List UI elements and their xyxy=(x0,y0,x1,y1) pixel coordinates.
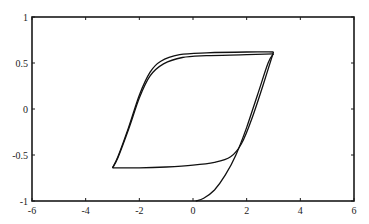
y-tick-label: 0 xyxy=(23,104,28,115)
series-descending-branch-outer xyxy=(113,52,274,168)
y-tick-label: 0.5 xyxy=(16,58,29,69)
series-initial-magnetization xyxy=(196,54,274,201)
y-axis: 10.50-0.5-1 xyxy=(12,12,354,207)
plot-series xyxy=(113,52,274,201)
y-tick-label: -1 xyxy=(20,196,28,207)
x-tick-label: -4 xyxy=(81,205,89,216)
axes-frame xyxy=(32,17,354,201)
y-tick-label: 1 xyxy=(23,12,28,23)
series-ascending-branch xyxy=(113,52,274,168)
x-axis: -6-4-20246 xyxy=(28,17,357,216)
x-tick-label: 0 xyxy=(191,205,196,216)
x-tick-label: 4 xyxy=(298,205,303,216)
series-descending-branch-inner xyxy=(113,54,274,168)
x-tick-label: 6 xyxy=(352,205,357,216)
x-tick-label: 2 xyxy=(244,205,249,216)
x-tick-label: -6 xyxy=(28,205,36,216)
y-tick-label: -0.5 xyxy=(12,150,28,161)
hysteresis-chart: -6-4-20246 10.50-0.5-1 xyxy=(0,0,369,224)
x-tick-label: -2 xyxy=(135,205,143,216)
